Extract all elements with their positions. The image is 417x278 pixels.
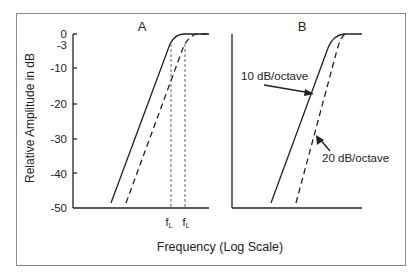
panel-a-label: A: [138, 19, 147, 34]
svg-text:fL: fL: [165, 216, 172, 230]
x-axis-label: Frequency (Log Scale): [157, 240, 283, 254]
svg-text:-50: -50: [50, 202, 67, 214]
annotation-20db: 20 dB/octave: [322, 152, 389, 164]
y-axis-label: Relative Amplitude in dB: [23, 53, 37, 183]
panel-b-label: B: [298, 19, 307, 34]
cutoff-labels: fL fL: [165, 216, 189, 230]
filter-response-chart: Relative Amplitude in dB 0 -3 -10 -20 -3…: [0, 0, 417, 278]
svg-text:fL: fL: [182, 216, 189, 230]
svg-text:-20: -20: [50, 98, 67, 110]
svg-text:-3: -3: [57, 39, 67, 51]
panel-a-dashed-curve: [126, 34, 209, 203]
svg-text:-40: -40: [50, 168, 67, 180]
arrow-20db-icon: [316, 135, 330, 151]
annotation-10db: 10 dB/octave: [241, 70, 308, 82]
panel-b-10db-curve: [271, 34, 362, 203]
panel-b: [232, 34, 362, 208]
arrow-10db-icon: [264, 85, 314, 96]
y-tick-labels: 0 -3 -10 -20 -30 -40 -50: [50, 28, 67, 214]
svg-text:-10: -10: [50, 62, 67, 74]
panel-a-solid-curve: [111, 34, 209, 203]
panel-b-20db-curve: [296, 34, 345, 203]
svg-text:-30: -30: [50, 133, 67, 145]
